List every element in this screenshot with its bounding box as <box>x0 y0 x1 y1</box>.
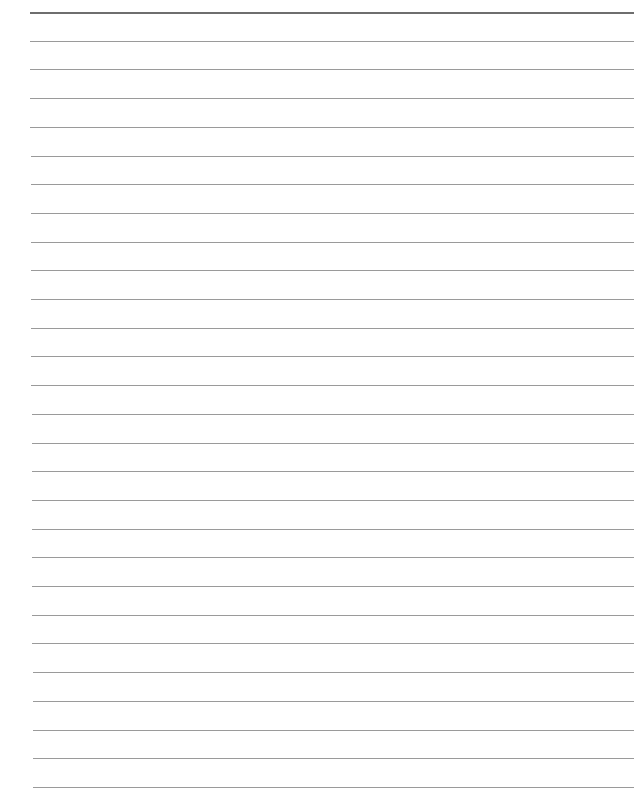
ruled-line <box>30 69 634 70</box>
ruled-line <box>31 184 634 185</box>
lined-paper-page <box>0 0 638 810</box>
ruled-line <box>32 615 634 616</box>
ruled-line <box>32 529 634 530</box>
ruled-line <box>32 557 634 558</box>
ruled-line <box>31 270 634 271</box>
ruled-line <box>31 356 634 357</box>
ruled-line <box>31 299 634 300</box>
ruled-line <box>33 758 634 759</box>
ruled-line <box>33 730 634 731</box>
ruled-line <box>32 500 634 501</box>
ruled-line <box>31 213 634 214</box>
ruled-line <box>31 156 634 157</box>
ruled-line <box>31 328 634 329</box>
ruled-line <box>32 414 634 415</box>
ruled-line <box>32 471 634 472</box>
ruled-line <box>32 443 634 444</box>
ruled-line <box>31 385 634 386</box>
ruled-line <box>30 41 634 42</box>
ruled-line <box>30 127 634 128</box>
ruled-line <box>33 787 634 788</box>
top-ruled-line <box>30 12 634 14</box>
ruled-line <box>30 98 634 99</box>
ruled-line <box>31 242 634 243</box>
ruled-line <box>32 643 634 644</box>
ruled-line <box>33 672 634 673</box>
ruled-line <box>33 701 634 702</box>
ruled-line <box>32 586 634 587</box>
